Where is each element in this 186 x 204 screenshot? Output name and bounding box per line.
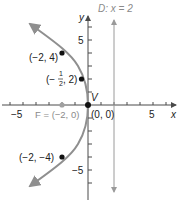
focus-label: F = (−2, 0) [35, 109, 79, 120]
x-tick-label-5: 5 [149, 109, 155, 120]
point-neg2-neg4 [59, 154, 64, 159]
x-tick-label-neg5: −5 [11, 109, 23, 120]
y-axis-label: y [78, 12, 85, 23]
point-label-neghalf-2-close: , 2) [63, 74, 77, 85]
vertex-label: V [91, 92, 99, 103]
point-neg2-4 [59, 50, 64, 55]
point-label-neg2-4: (−2, 4) [29, 52, 58, 63]
vertex-coords-label: (0, 0) [91, 109, 114, 120]
x-axis-label: x [170, 109, 177, 120]
y-tick-label-neg5: −5 [72, 165, 84, 176]
directrix-label: D: x = 2 [98, 3, 133, 14]
point-label-neghalf-2-open: (− [46, 74, 55, 85]
y-tick-label-5: 5 [78, 35, 84, 46]
point-neghalf-2 [79, 76, 84, 81]
focus-point [59, 102, 64, 107]
parabola-chart: y x −5 5 5 −5 (−2, 4) (− 1 2 , 2) V (0, … [0, 0, 186, 204]
point-label-neg2-neg4: (−2, −4) [19, 152, 54, 163]
